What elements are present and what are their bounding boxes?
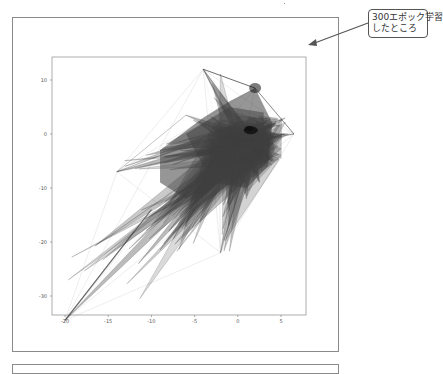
x-tick-label: -10 <box>147 318 155 324</box>
annotation-callout: 300エポック学習 したところ <box>368 9 428 38</box>
x-axis: -20-15-10-505 <box>61 315 283 324</box>
y-tick-label: -20 <box>39 239 47 245</box>
y-tick-label: 10 <box>41 77 47 83</box>
y-tick-label: 0 <box>44 131 47 137</box>
callout-arrow <box>308 23 368 46</box>
x-tick-label: -20 <box>61 318 69 324</box>
annotation-line-1: 300エポック学習 <box>372 12 424 23</box>
annotation-line-2: したところ <box>372 23 424 34</box>
x-tick-label: -5 <box>192 318 197 324</box>
y-tick-label: -30 <box>39 293 47 299</box>
y-axis: 100-10-20-30 <box>39 77 52 299</box>
x-tick-label: -15 <box>104 318 112 324</box>
x-tick-label: 5 <box>279 318 282 324</box>
y-tick-label: -10 <box>39 185 47 191</box>
x-tick-label: 0 <box>236 318 239 324</box>
